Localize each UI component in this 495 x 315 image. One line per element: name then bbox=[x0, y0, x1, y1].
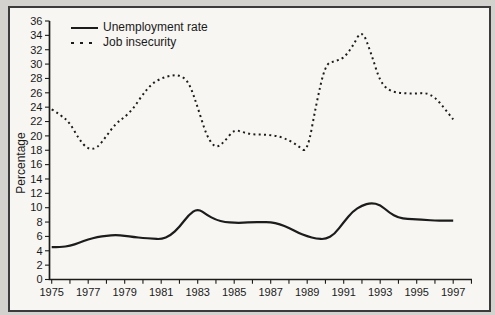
y-tick-label: 16 bbox=[30, 158, 42, 170]
dotted-line-swatch-icon bbox=[71, 42, 98, 44]
legend-item-job-insecurity: Job insecurity bbox=[71, 35, 208, 50]
series-line-job-insecurity bbox=[52, 34, 454, 150]
y-tick-label: 0 bbox=[36, 273, 42, 285]
y-tick-label: 6 bbox=[36, 230, 42, 242]
axes bbox=[50, 21, 472, 280]
x-tick-label: 1985 bbox=[222, 286, 246, 298]
solid-line-swatch-icon bbox=[71, 27, 98, 29]
x-tick-label: 1989 bbox=[295, 286, 319, 298]
y-tick-label: 26 bbox=[30, 87, 42, 99]
y-axis-title: Percentage bbox=[14, 132, 28, 193]
y-tick-label: 18 bbox=[30, 144, 42, 156]
x-tick-label: 1981 bbox=[149, 286, 173, 298]
y-tick-label: 4 bbox=[36, 245, 42, 257]
y-tick-label: 10 bbox=[30, 201, 42, 213]
legend-item-unemployment-rate: Unemployment rate bbox=[71, 20, 208, 35]
y-tick-label: 8 bbox=[36, 216, 42, 228]
y-tick-label: 20 bbox=[30, 130, 42, 142]
y-tick-label: 14 bbox=[30, 173, 42, 185]
y-tick-label: 22 bbox=[30, 115, 42, 127]
x-tick-label: 1979 bbox=[112, 286, 136, 298]
x-tick-label: 1983 bbox=[185, 286, 209, 298]
y-tick-label: 24 bbox=[30, 101, 42, 113]
series-line-unemployment-rate bbox=[52, 203, 454, 247]
y-tick-label: 30 bbox=[30, 58, 42, 70]
x-tick-label: 1977 bbox=[76, 286, 100, 298]
legend-label-unemployment-rate: Unemployment rate bbox=[103, 20, 208, 35]
y-tick-label: 2 bbox=[36, 259, 42, 271]
y-tick-label: 32 bbox=[30, 44, 42, 56]
x-tick-label: 1993 bbox=[368, 286, 392, 298]
y-tick-label: 12 bbox=[30, 187, 42, 199]
x-tick-label: 1991 bbox=[331, 286, 355, 298]
y-tick-label: 34 bbox=[30, 29, 42, 41]
legend: Unemployment rate Job insecurity bbox=[71, 20, 208, 50]
legend-label-job-insecurity: Job insecurity bbox=[103, 35, 176, 50]
y-tick-label: 28 bbox=[30, 72, 42, 84]
x-tick-label: 1997 bbox=[441, 286, 465, 298]
x-tick-label: 1975 bbox=[39, 286, 63, 298]
x-tick-label: 1995 bbox=[404, 286, 428, 298]
y-tick-label: 36 bbox=[30, 15, 42, 27]
x-tick-label: 1987 bbox=[258, 286, 282, 298]
